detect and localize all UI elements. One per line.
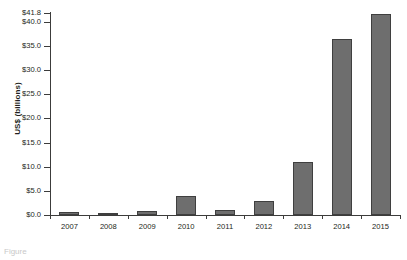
- x-tick-mark: [89, 215, 90, 219]
- x-tick-mark: [128, 215, 129, 219]
- y-tick-label: $0.0: [0, 211, 41, 219]
- x-tick-label: 2015: [351, 222, 407, 231]
- y-tick-mark: [44, 70, 50, 71]
- y-tick-label: $25.0: [0, 90, 41, 98]
- x-tick-mark: [206, 215, 207, 219]
- x-tick-mark: [400, 215, 401, 219]
- y-tick-label: $20.0: [0, 114, 41, 122]
- y-axis-line: [50, 12, 51, 216]
- y-tick-mark: [44, 143, 50, 144]
- bar: [98, 213, 118, 216]
- figure-caption: Figure: [4, 247, 27, 258]
- y-tick-label: $35.0: [0, 42, 41, 50]
- bar: [332, 39, 352, 215]
- bar: [371, 14, 391, 215]
- bar: [176, 196, 196, 215]
- bar-chart-figure: US$ (billions) $0.0$5.0$10.0$15.0$20.0$2…: [0, 0, 407, 260]
- y-tick-mark: [44, 167, 50, 168]
- y-tick-mark: [44, 22, 50, 23]
- y-tick-label: $30.0: [0, 66, 41, 74]
- bar: [59, 212, 79, 215]
- x-tick-mark: [283, 215, 284, 219]
- bar: [137, 211, 157, 215]
- x-tick-mark: [361, 215, 362, 219]
- y-tick-label: $15.0: [0, 139, 41, 147]
- y-tick-mark: [44, 13, 50, 14]
- y-tick-label: $5.0: [0, 187, 41, 195]
- y-tick-mark: [44, 94, 50, 95]
- x-tick-mark: [322, 215, 323, 219]
- x-axis-line: [50, 215, 400, 216]
- y-tick-label: $10.0: [0, 163, 41, 171]
- bar: [293, 162, 313, 215]
- x-tick-mark: [167, 215, 168, 219]
- x-tick-mark: [50, 215, 51, 219]
- bar: [215, 210, 235, 215]
- y-tick-mark: [44, 118, 50, 119]
- y-tick-label: $41.8: [0, 9, 41, 17]
- x-tick-mark: [244, 215, 245, 219]
- y-tick-mark: [44, 191, 50, 192]
- y-tick-mark: [44, 46, 50, 47]
- y-tick-label: $40.0: [0, 18, 41, 26]
- bar: [254, 201, 274, 215]
